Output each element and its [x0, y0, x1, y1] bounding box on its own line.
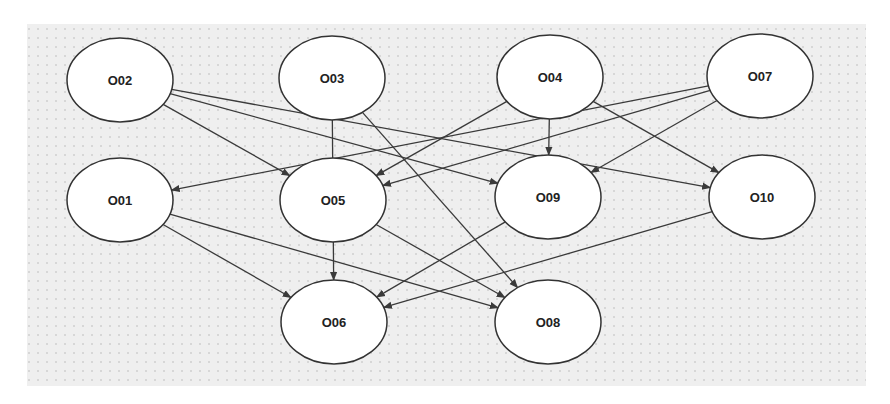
node-label: O10	[750, 190, 775, 205]
node-label: O04	[538, 70, 563, 85]
node-o02[interactable]: O02	[67, 38, 173, 122]
node-label: O02	[108, 73, 133, 88]
node-label: O09	[536, 190, 561, 205]
node-label: O08	[536, 315, 561, 330]
node-label: O07	[748, 69, 773, 84]
node-o04[interactable]: O04	[497, 35, 603, 119]
node-o10[interactable]: O10	[709, 155, 815, 239]
node-o05[interactable]: O05	[280, 158, 386, 242]
node-label: O06	[322, 315, 347, 330]
node-o03[interactable]: O03	[279, 36, 385, 120]
node-o01[interactable]: O01	[67, 158, 173, 242]
node-label: O05	[321, 193, 346, 208]
node-o08[interactable]: O08	[495, 280, 601, 364]
node-o07[interactable]: O07	[707, 34, 813, 118]
diagram-canvas: O02O03O04O07O01O05O09O10O06O08	[0, 0, 890, 404]
node-o09[interactable]: O09	[495, 155, 601, 239]
node-o06[interactable]: O06	[281, 280, 387, 364]
node-label: O03	[320, 71, 345, 86]
node-label: O01	[108, 193, 133, 208]
